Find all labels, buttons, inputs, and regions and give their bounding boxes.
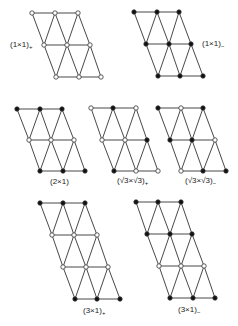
lattice-bond xyxy=(75,267,86,299)
filled-atom-icon xyxy=(61,201,65,205)
lattice-bond xyxy=(97,267,108,299)
lattice-bond xyxy=(51,109,62,140)
lattice-bond xyxy=(181,108,192,140)
lattice-bond xyxy=(169,12,179,44)
lattice-2x1 xyxy=(15,107,87,173)
lattice-bond xyxy=(192,140,203,171)
lattice-bond xyxy=(63,203,74,235)
label-text: (1×1) xyxy=(10,40,29,49)
lattice-1x1-minus xyxy=(132,10,205,78)
filled-atom-icon xyxy=(189,42,193,46)
open-atom-icon xyxy=(123,138,127,142)
lattice-bond xyxy=(52,203,63,235)
open-atom-icon xyxy=(30,11,34,15)
lattice-bond xyxy=(63,140,74,171)
open-atom-icon xyxy=(49,138,53,142)
filled-atom-icon xyxy=(155,10,159,14)
lattice-bond xyxy=(40,203,52,235)
lattice-bond xyxy=(193,266,204,298)
diagram-label-1x1-minus: (1×1)− xyxy=(202,40,224,49)
filled-atom-icon xyxy=(111,106,115,110)
lattice-bond xyxy=(55,13,67,45)
lattice-bond xyxy=(97,235,108,267)
filled-atom-icon xyxy=(145,138,149,142)
label-subscript: − xyxy=(197,309,201,315)
lattice-bond xyxy=(40,140,51,171)
lattice-bond xyxy=(158,44,169,76)
open-atom-icon xyxy=(179,169,183,173)
lattice-bond xyxy=(44,45,56,77)
lattice-bond xyxy=(181,234,192,266)
diagram-label-r3xr3-plus: (√3×√3)+ xyxy=(117,177,148,186)
filled-atom-icon xyxy=(95,297,99,301)
filled-atom-icon xyxy=(168,296,172,300)
open-atom-icon xyxy=(134,169,138,173)
open-atom-icon xyxy=(88,43,92,47)
lattice-bond xyxy=(113,108,125,140)
diagram-label-3x1-minus: (3×1)− xyxy=(178,306,200,315)
lattice-bond xyxy=(136,108,147,140)
filled-atom-icon xyxy=(60,107,64,111)
open-atom-icon xyxy=(95,233,99,237)
filled-atom-icon xyxy=(190,232,194,236)
lattice-bond xyxy=(203,108,215,140)
lattice-bond xyxy=(179,12,191,44)
lattice-bond xyxy=(169,44,180,76)
open-atom-icon xyxy=(65,43,69,47)
label-subscript: − xyxy=(213,180,217,186)
lattice-bond xyxy=(170,108,181,140)
lattice-bond xyxy=(170,140,181,171)
open-atom-icon xyxy=(76,11,80,15)
diagram-label-2x1: (2×1) xyxy=(50,178,69,186)
label-text: (√3×√3) xyxy=(185,176,213,185)
lattice-bond xyxy=(147,202,158,234)
open-atom-icon xyxy=(202,264,206,268)
filled-atom-icon xyxy=(201,74,205,78)
lattice-bond xyxy=(170,202,181,234)
open-atom-icon xyxy=(179,106,183,110)
diagram-label-1x1-plus: (1×1)+ xyxy=(10,41,32,50)
filled-atom-icon xyxy=(224,169,228,173)
lattice-bond xyxy=(56,45,67,77)
open-atom-icon xyxy=(89,106,93,110)
open-atom-icon xyxy=(156,169,160,173)
filled-atom-icon xyxy=(168,232,172,236)
lattice-bond xyxy=(114,140,125,171)
filled-atom-icon xyxy=(38,201,42,205)
label-text: (√3×√3) xyxy=(117,176,145,185)
lattice-bond xyxy=(170,266,181,298)
filled-atom-icon xyxy=(112,169,116,173)
diagram-label-3x1-plus: (3×1)+ xyxy=(83,307,105,316)
label-text: (1×1) xyxy=(202,39,221,48)
open-atom-icon xyxy=(61,265,65,269)
lattice-bond xyxy=(159,266,170,298)
lattice-bond xyxy=(29,140,40,171)
filled-atom-icon xyxy=(73,297,77,301)
filled-atom-icon xyxy=(179,200,183,204)
filled-atom-icon xyxy=(190,138,194,142)
open-atom-icon xyxy=(42,43,46,47)
lattice-bond xyxy=(63,235,74,267)
filled-atom-icon xyxy=(167,42,171,46)
open-atom-icon xyxy=(100,138,104,142)
filled-atom-icon xyxy=(145,232,149,236)
lattice-bond xyxy=(108,267,120,299)
lattice-bond xyxy=(136,202,147,234)
lattice-bond xyxy=(146,12,157,44)
open-atom-icon xyxy=(77,75,81,79)
open-atom-icon xyxy=(72,138,76,142)
filled-atom-icon xyxy=(15,107,19,111)
open-atom-icon xyxy=(54,75,58,79)
filled-atom-icon xyxy=(144,42,148,46)
label-subscript: + xyxy=(29,44,33,50)
open-atom-icon xyxy=(157,264,161,268)
lattice-bond xyxy=(125,108,136,140)
filled-atom-icon xyxy=(201,106,205,110)
open-atom-icon xyxy=(72,233,76,237)
lattice-bond xyxy=(215,140,226,171)
lattice-bond xyxy=(78,13,90,45)
lattice-bond xyxy=(136,140,147,171)
open-atom-icon xyxy=(106,265,110,269)
lattice-bond xyxy=(158,108,170,140)
open-atom-icon xyxy=(179,264,183,268)
